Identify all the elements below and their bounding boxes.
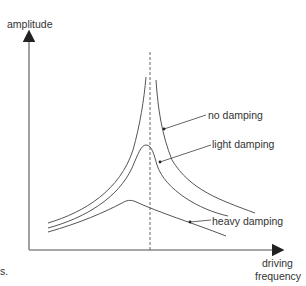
label-heavy-damping: heavy damping <box>212 215 283 227</box>
curve-no-damping-left <box>48 77 146 223</box>
leader-no-damping <box>164 115 206 129</box>
y-axis-label: amplitude <box>7 18 53 30</box>
label-light-damping: light damping <box>212 138 274 150</box>
x-axis-label-line2: frequency <box>255 270 301 282</box>
curve-light-damping <box>48 145 228 228</box>
x-axis-label-line1: driving <box>262 257 293 269</box>
leader-heavy-damping <box>190 220 211 222</box>
label-no-damping: no damping <box>208 109 263 121</box>
fragment-text: s. <box>0 265 8 277</box>
